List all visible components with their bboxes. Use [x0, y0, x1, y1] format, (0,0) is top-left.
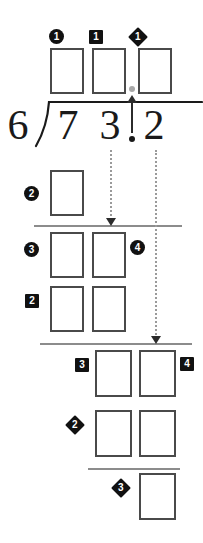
marker-step-four-square: 4	[180, 357, 194, 371]
second-product-box-1[interactable]	[50, 286, 84, 332]
marker-step-two-square-label: 2	[29, 296, 35, 306]
dividend-digit-2: 3	[94, 104, 126, 146]
third-product-box-2[interactable]	[139, 410, 176, 457]
marker-step-two-circle: 2	[24, 186, 39, 201]
second-product-box-2[interactable]	[92, 286, 126, 332]
first-remainder-box-1[interactable]	[50, 232, 84, 278]
bring-down-arrow-1	[106, 218, 116, 226]
bring-down-arrow-2	[151, 336, 161, 344]
bring-down-line-1	[110, 150, 112, 220]
dividend-decimal-point	[129, 136, 135, 142]
marker-step-three-circle-label: 3	[29, 245, 35, 255]
first-product-box-1[interactable]	[50, 170, 84, 216]
subtraction-rule-2	[40, 343, 192, 345]
marker-step-three-circle: 3	[24, 242, 39, 257]
decimal-raise-arrow-head	[127, 95, 137, 103]
quotient-box-1[interactable]	[50, 48, 84, 94]
marker-quotient-tens-label: 1	[93, 32, 99, 42]
marker-step-four-circle-label: 4	[135, 243, 141, 253]
first-remainder-box-2[interactable]	[92, 232, 126, 278]
second-remainder-box-1[interactable]	[95, 350, 132, 397]
final-remainder-box-1[interactable]	[139, 473, 176, 520]
marker-step-two-square: 2	[25, 294, 39, 308]
marker-quotient-decimal-label: 1	[135, 32, 141, 42]
marker-quotient-tens: 1	[89, 30, 103, 44]
dividend-digit-3: 2	[138, 104, 170, 146]
marker-step-two-circle-label: 2	[29, 189, 35, 199]
subtraction-rule-3	[88, 468, 180, 470]
long-division-worksheet: 1 1 1 6 7 3 2 2 3 4 2	[0, 0, 203, 543]
divisor-digit: 6	[2, 104, 34, 146]
marker-quotient-ones: 1	[49, 29, 64, 44]
third-product-box-1[interactable]	[95, 410, 132, 457]
bring-down-line-2	[155, 150, 157, 338]
quotient-box-2[interactable]	[92, 48, 126, 94]
marker-quotient-decimal: 1	[128, 27, 148, 47]
marker-step-two-diamond-label: 2	[72, 420, 78, 430]
marker-step-three-diamond-label: 3	[118, 483, 124, 493]
quotient-decimal-point-ghost	[129, 86, 135, 92]
marker-step-four-square-label: 4	[184, 359, 190, 369]
quotient-box-3[interactable]	[138, 48, 172, 94]
marker-step-four-circle: 4	[130, 240, 145, 255]
marker-step-two-diamond: 2	[65, 415, 85, 435]
second-remainder-box-2[interactable]	[139, 350, 176, 397]
marker-step-three-square-label: 3	[79, 360, 85, 370]
marker-step-three-diamond: 3	[111, 478, 131, 498]
marker-step-three-square: 3	[75, 358, 89, 372]
decimal-raise-arrow-shaft	[131, 103, 133, 133]
dividend-digit-1: 7	[52, 104, 84, 146]
marker-quotient-ones-label: 1	[54, 32, 60, 42]
